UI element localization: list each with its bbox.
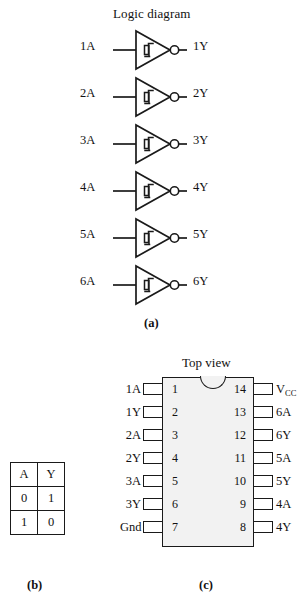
truth-table-cell-a-1: 1 [11,511,38,535]
truth-table-cell-y-0: 1 [38,487,65,511]
pin-label-6A: 6A [276,406,291,419]
pin-lead-5 [143,475,163,487]
pin-label-Vcc-subscript: CC [285,388,296,398]
pin-lead-13 [253,406,273,418]
inverter-gate-4: 4A 4Y [80,169,210,213]
pin-label-4Y: 4Y [276,521,291,534]
pin-lead-6 [143,498,163,510]
pin-number-9: 9 [224,498,246,510]
gate-1-input-label: 1A [80,40,95,53]
schmitt-inverter-symbol-4 [113,169,191,213]
pin-number-7: 7 [172,521,178,533]
truth-table-header-a: A [11,463,38,487]
caption-a: (a) [144,316,159,331]
truth-table-header-y: Y [38,463,65,487]
logic-diagram-title: Logic diagram [113,6,190,22]
pin-lead-1 [143,383,163,395]
figure-root: Logic diagram 1A 1Y 2A 2Y [0,0,306,609]
gate-2-output-label: 2Y [193,87,208,100]
truth-table-panel: A Y 0 1 1 0 [10,462,65,535]
pin-number-4: 4 [172,452,178,464]
pin-number-6: 6 [172,498,178,510]
pin-number-1: 1 [172,383,178,395]
gate-3-output-label: 3Y [193,134,208,147]
pin-number-10: 10 [224,475,246,487]
pin-number-8: 8 [224,521,246,533]
truth-table: A Y 0 1 1 0 [10,462,65,535]
pin-label-4A: 4A [276,498,291,511]
pin-number-2: 2 [172,406,178,418]
schmitt-inverter-symbol-5 [113,216,191,260]
top-view-title: Top view [182,355,231,371]
pin-lead-3 [143,429,163,441]
pin-lead-7 [143,521,163,533]
pin-lead-12 [253,429,273,441]
pin-lead-2 [143,406,163,418]
truth-table-cell-a-0: 0 [11,487,38,511]
pin-number-14: 14 [224,383,246,395]
pin-label-2Y: 2Y [120,452,141,465]
pin-lead-14 [253,383,273,395]
pin-label-Vcc-base: V [276,382,285,396]
schmitt-inverter-symbol-3 [113,122,191,166]
table-row-header: A Y [11,463,65,487]
schmitt-inverter-symbol-1 [113,28,191,72]
inverter-gate-3: 3A 3Y [80,122,210,166]
pin-number-12: 12 [224,429,246,441]
pin-label-5A: 5A [276,452,291,465]
pin-label-1Y: 1Y [120,406,141,419]
pin-number-11: 11 [224,452,246,464]
pin-label-1A: 1A [120,383,141,396]
pin-number-13: 13 [224,406,246,418]
gate-3-input-label: 3A [80,134,95,147]
pinout-panel: Top view 1 2 3 4 5 6 7 14 13 12 11 10 9 [120,355,306,585]
table-row: 1 0 [11,511,65,535]
schmitt-inverter-symbol-6 [113,263,191,307]
gate-6-output-label: 6Y [193,275,208,288]
inverter-gate-1: 1A 1Y [80,28,210,72]
pin-number-5: 5 [172,475,178,487]
pin-lead-11 [253,452,273,464]
pin-lead-8 [253,521,273,533]
logic-diagram-panel: Logic diagram 1A 1Y 2A 2Y [0,0,306,340]
pin-lead-9 [253,498,273,510]
caption-c: (c) [199,578,213,593]
gate-4-input-label: 4A [80,181,95,194]
gate-4-output-label: 4Y [193,181,208,194]
pin-lead-4 [143,452,163,464]
schmitt-inverter-symbol-2 [113,75,191,119]
inverter-gate-5: 5A 5Y [80,216,210,260]
gate-6-input-label: 6A [80,275,95,288]
truth-table-cell-y-1: 0 [38,511,65,535]
pin-lead-10 [253,475,273,487]
gate-5-input-label: 5A [80,228,95,241]
pin-label-Gnd: Gnd [120,521,141,534]
pin-label-3A: 3A [120,475,141,488]
table-row: 0 1 [11,487,65,511]
pin-label-5Y: 5Y [276,475,291,488]
pin-label-2A: 2A [120,429,141,442]
inverter-gate-2: 2A 2Y [80,75,210,119]
gate-5-output-label: 5Y [193,228,208,241]
inverter-gate-6: 6A 6Y [80,263,210,307]
caption-b: (b) [27,578,42,593]
pin-label-3Y: 3Y [120,498,141,511]
gate-2-input-label: 2A [80,87,95,100]
pin-label-Vcc: VCC [276,383,296,396]
pin-label-6Y: 6Y [276,429,291,442]
pin-number-3: 3 [172,429,178,441]
gate-1-output-label: 1Y [193,40,208,53]
